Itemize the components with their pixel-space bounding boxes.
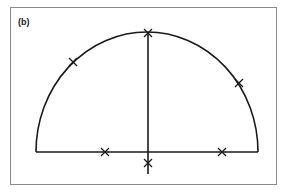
semicircle-diagram xyxy=(0,0,288,194)
semicircle-arc xyxy=(36,32,258,152)
cross-markers xyxy=(69,29,243,167)
cross-marker-icon xyxy=(69,58,77,66)
